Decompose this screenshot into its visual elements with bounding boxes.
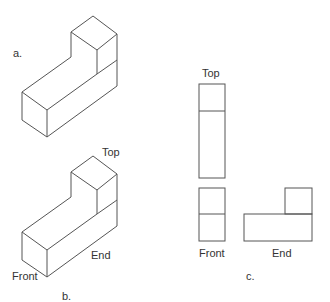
figure-b-front-label: Front	[12, 271, 38, 282]
orthographic-top-view	[199, 84, 225, 178]
figure-b-label: b.	[62, 291, 71, 302]
figure-b-top-label: Top	[102, 147, 120, 158]
figure-a-label: a.	[13, 48, 22, 59]
figure-c-end-label: End	[272, 248, 292, 259]
figure-c-front-label: Front	[199, 248, 225, 259]
isometric-block-a	[22, 16, 117, 137]
orthographic-end-view	[244, 188, 312, 241]
figure-c-label: c.	[246, 271, 255, 282]
orthographic-front-view	[199, 188, 225, 241]
figure-c-top-label: Top	[202, 68, 220, 79]
figure-b-end-label: End	[91, 250, 111, 261]
